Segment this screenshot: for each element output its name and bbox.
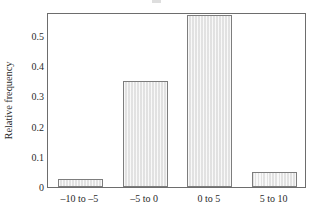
y-tick-label: 0.5 xyxy=(0,31,44,43)
y-tick-label: 0.1 xyxy=(0,152,44,164)
bar xyxy=(187,15,232,187)
cropped-title-remnant xyxy=(152,0,161,3)
relative-frequency-bar-chart: Relative frequency 00.10.20.30.40.5 –10 … xyxy=(0,0,316,215)
y-tick-label: 0.3 xyxy=(0,91,44,103)
bar xyxy=(58,179,103,187)
plot-area xyxy=(47,13,306,188)
x-tick-label: 5 to 10 xyxy=(224,193,316,207)
bar xyxy=(123,81,168,187)
y-tick-label: 0.4 xyxy=(0,61,44,73)
bar xyxy=(252,172,297,187)
y-tick-label: 0.2 xyxy=(0,122,44,134)
